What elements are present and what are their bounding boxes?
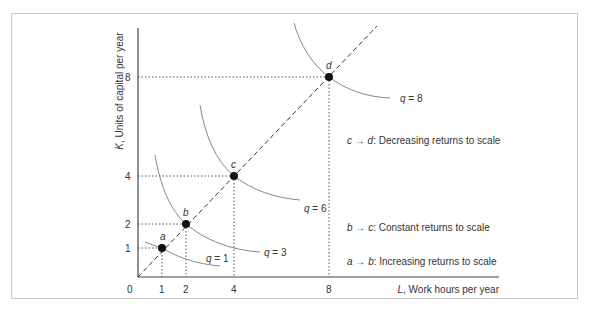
x-tick-8: 8 (326, 284, 332, 295)
isoquant-q3 (155, 155, 260, 252)
origin-label: 0 (127, 284, 133, 295)
isoquant-q6 (200, 105, 300, 200)
isoquant-q8 (294, 23, 390, 98)
point-d (325, 73, 333, 81)
y-tick-8: 8 (125, 72, 131, 83)
point-c (230, 172, 238, 180)
y-tick-2: 2 (125, 219, 131, 230)
point-a (158, 244, 166, 252)
point-label-c: c (231, 159, 236, 170)
isoquant-label-q6: q = 6 (304, 203, 327, 214)
x-tick-2: 2 (183, 284, 189, 295)
expansion-path (138, 26, 377, 277)
annotation-c-to-d: c → d: Decreasing returns to scale (347, 135, 501, 146)
x-tick-4: 4 (231, 284, 237, 295)
point-label-a: a (160, 231, 166, 242)
isoquant-label-q3: q = 3 (264, 247, 287, 258)
returns-to-scale-chart: a b c d q = 1 q = 3 q = 6 q = 8 c → d: D… (0, 0, 589, 314)
y-tick-4: 4 (125, 171, 131, 182)
point-b (182, 220, 190, 228)
x-axis-title: L, Work hours per year (397, 284, 499, 295)
point-label-d: d (326, 60, 332, 71)
point-label-b: b (183, 207, 189, 218)
annotation-b-to-c: b → c: Constant returns to scale (347, 222, 490, 233)
x-tick-1: 1 (159, 284, 165, 295)
y-tick-1: 1 (125, 243, 131, 254)
isoquant-label-q1: q = 1 (206, 253, 229, 264)
isoquant-label-q8: q = 8 (400, 93, 423, 104)
annotation-a-to-b: a → b: Increasing returns to scale (347, 256, 497, 267)
y-axis-title: K, Units of capital per year (114, 32, 125, 150)
